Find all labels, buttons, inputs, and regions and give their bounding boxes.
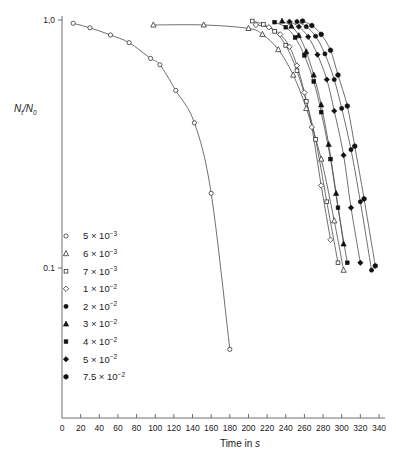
data-point-filled-diamond: [348, 205, 353, 210]
data-point-open-diamond: [266, 25, 271, 30]
x-tick-label: 80: [132, 423, 142, 433]
data-point-filled-triangle: [326, 141, 331, 146]
data-point-open-diamond: [294, 63, 299, 68]
data-point-filled-square: [303, 54, 307, 58]
data-point-open-diamond: [309, 124, 314, 129]
legend-label-3: 1 × 10−2: [83, 283, 117, 294]
legend-item-7: 5 × 10−2: [63, 353, 117, 364]
data-point-open-square: [314, 138, 318, 142]
data-point-filled-triangle: [279, 18, 284, 23]
x-tick-label: 240: [279, 423, 293, 433]
legend-label-5: 3 × 10−2: [83, 318, 117, 329]
series-line-4: [297, 22, 372, 271]
legend-label-1: 6 × 10−3: [83, 248, 117, 259]
data-point-filled-square: [336, 206, 340, 210]
data-point-open-triangle: [341, 267, 346, 272]
series-markers-8: [300, 19, 377, 269]
data-point-filled-diamond: [341, 153, 346, 158]
legend-item-6: 4 × 10−2: [64, 336, 117, 347]
series-markers-2: [250, 19, 339, 264]
data-point-open-circle: [71, 21, 75, 25]
x-tick-label: 120: [167, 423, 181, 433]
data-point-open-square: [262, 23, 266, 27]
x-tick-label: 260: [297, 423, 311, 433]
data-point-filled-triangle: [63, 321, 68, 326]
data-point-filled-hexagon: [310, 23, 314, 28]
data-point-filled-circle: [349, 148, 353, 152]
data-point-filled-hexagon: [300, 19, 304, 24]
data-point-filled-diamond: [63, 357, 68, 362]
legend-item-1: 6 × 10−3: [63, 248, 117, 259]
data-point-filled-triangle: [333, 190, 338, 195]
x-tick-label: 40: [95, 423, 105, 433]
data-point-filled-triangle: [304, 49, 309, 54]
x-tick-label: 340: [372, 423, 386, 433]
data-point-open-square: [250, 19, 254, 23]
data-point-open-diamond: [319, 183, 324, 188]
data-point-filled-hexagon: [345, 103, 349, 108]
x-tick-label: 320: [353, 423, 367, 433]
data-point-filled-square: [345, 261, 349, 265]
data-point-open-square: [273, 30, 277, 34]
x-tick-label: 160: [204, 423, 218, 433]
series-line-3: [256, 25, 331, 240]
data-point-filled-hexagon: [373, 263, 377, 268]
data-point-open-circle: [127, 41, 131, 45]
legend-item-0: 5 × 10−3: [64, 230, 118, 241]
data-point-filled-hexagon: [64, 374, 68, 379]
legend-label-7: 5 × 10−2: [83, 353, 117, 364]
axis-titles: Time in sNt/N0: [14, 103, 260, 449]
data-point-filled-diamond: [315, 52, 320, 57]
series-line-8: [303, 21, 376, 266]
x-tick-label: 60: [113, 423, 123, 433]
x-tick-label: 180: [223, 423, 237, 433]
x-axis-title: Time in s: [220, 438, 260, 449]
data-point-filled-diamond: [305, 34, 310, 39]
x-tick-label: 100: [148, 423, 162, 433]
legend-item-2: 7 × 10−3: [64, 265, 117, 276]
data-point-open-circle: [148, 56, 152, 60]
legend-label-8: 7.5 × 10−2: [83, 371, 125, 382]
legend: 5 × 10−36 × 10−37 × 10−31 × 10−22 × 10−2…: [63, 230, 125, 382]
data-point-filled-square: [273, 20, 277, 24]
data-point-open-diamond: [63, 286, 68, 291]
data-point-open-triangle: [63, 251, 68, 256]
data-point-open-circle: [209, 191, 213, 195]
data-point-filled-square: [319, 110, 323, 114]
series-line-2: [252, 21, 338, 263]
data-point-filled-diamond: [324, 77, 329, 82]
y-axis-title: Nt/N0: [14, 103, 37, 116]
series-line-6: [275, 22, 348, 263]
legend-item-3: 1 × 10−2: [63, 283, 117, 294]
data-point-open-circle: [228, 347, 232, 351]
data-point-filled-diamond: [332, 108, 337, 113]
data-point-filled-square: [329, 157, 333, 161]
data-point-filled-triangle: [341, 241, 346, 246]
legend-item-8: 7.5 × 10−2: [64, 371, 126, 382]
data-point-filled-circle: [369, 268, 373, 272]
x-tick-label: 0: [60, 423, 65, 433]
chart-figure: 0204060801001201401601802002202402602803…: [0, 0, 396, 472]
y-tick-labels: 1,00.1: [43, 15, 55, 273]
data-point-open-square: [336, 261, 340, 265]
data-point-open-diamond: [302, 90, 307, 95]
data-point-filled-circle: [295, 20, 299, 24]
plot-area: 0204060801001201401601802002202402602803…: [0, 0, 396, 472]
data-point-filled-square: [284, 25, 288, 29]
data-point-open-circle: [158, 63, 162, 67]
data-point-filled-circle: [304, 25, 308, 29]
x-tick-label: 200: [241, 423, 255, 433]
data-point-filled-circle: [314, 34, 318, 38]
data-point-filled-circle: [323, 52, 327, 56]
legend-label-4: 2 × 10−2: [83, 300, 117, 311]
series-markers-6: [273, 20, 349, 264]
legend-label-0: 5 × 10−3: [83, 230, 117, 241]
data-point-open-triangle: [151, 22, 156, 27]
data-point-open-circle: [88, 26, 92, 30]
data-point-filled-circle: [64, 304, 68, 308]
x-tick-label: 140: [185, 423, 199, 433]
data-point-open-circle: [192, 121, 196, 125]
y-tick-label: 0.1: [43, 263, 55, 273]
legend-label-6: 4 × 10−2: [83, 336, 117, 347]
data-point-filled-hexagon: [319, 32, 323, 37]
